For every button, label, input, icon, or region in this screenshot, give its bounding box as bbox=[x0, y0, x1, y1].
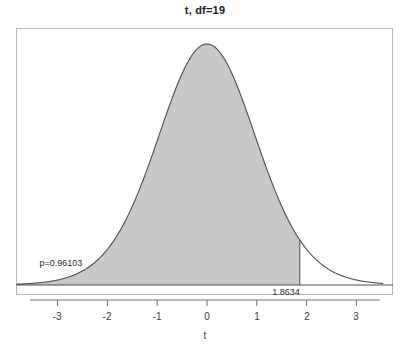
page-title: t, df=19 bbox=[0, 4, 410, 16]
p-value-annotation: p=0.96103 bbox=[40, 258, 83, 268]
xtick-label-1: 1 bbox=[237, 311, 277, 322]
cutoff-annotation: 1.8634 bbox=[260, 287, 300, 297]
x-axis-label: t bbox=[0, 330, 410, 341]
xtick-label-minus2: -2 bbox=[87, 311, 127, 322]
axis-tick-marks bbox=[58, 300, 357, 306]
xtick-label-2: 2 bbox=[287, 311, 327, 322]
xtick-label-minus3: -3 bbox=[37, 311, 77, 322]
xtick-label-minus1: -1 bbox=[137, 311, 177, 322]
xtick-label-3: 3 bbox=[336, 311, 376, 322]
density-curve-area bbox=[16, 28, 393, 295]
t-distribution-plot: t, df=19 -3 -2 -1 0 1 2 3 t p=0.96103 1.… bbox=[0, 0, 410, 358]
shaded-region bbox=[17, 44, 300, 285]
xtick-label-0: 0 bbox=[187, 311, 227, 322]
